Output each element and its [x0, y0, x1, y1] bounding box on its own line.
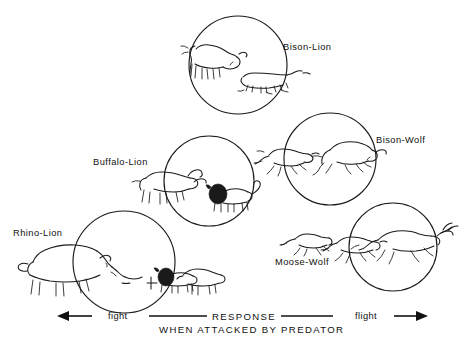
group-bison-wolf[interactable]: Bison-Wolf [254, 113, 425, 205]
label-bison-lion: Bison-Lion [283, 42, 331, 52]
figure-root: Bison-Lion [0, 0, 470, 345]
animal-lion-predator-2 [206, 181, 260, 212]
axis-subtitle: WHEN ATTACKED BY PREDATOR [159, 324, 344, 335]
label-bison-wolf: Bison-Wolf [376, 135, 425, 145]
lion-mane [209, 184, 227, 204]
animal-lion-predator-3 [147, 268, 225, 295]
animal-wolf-lone [280, 234, 332, 256]
arrow-left-head [57, 311, 69, 321]
lion-mane-2 [158, 268, 174, 286]
axis-label-fight: fight [108, 311, 128, 321]
animal-bison-prey-2 [313, 142, 386, 175]
group-bison-lion[interactable]: Bison-Lion [181, 16, 331, 114]
circle-bison-lion [189, 16, 287, 114]
circle-bison-wolf [284, 113, 376, 205]
group-buffalo-lion[interactable]: Buffalo-Lion [93, 136, 260, 226]
circle-rhino-lion [73, 211, 175, 313]
animal-rhino-prey [18, 245, 142, 296]
label-rhino-lion: Rhino-Lion [13, 228, 62, 238]
label-moose-wolf: Moose-Wolf [275, 257, 329, 267]
circle-buffalo-lion [164, 136, 254, 226]
response-axis: fight RESPONSE flight WHEN ATTACKED BY P… [57, 311, 428, 335]
diagram-canvas: Bison-Lion [0, 0, 470, 345]
animal-moose-prey [351, 223, 458, 264]
animal-lion-predator [238, 71, 310, 94]
group-rhino-lion[interactable]: Rhino-Lion [13, 211, 225, 313]
axis-label-response: RESPONSE [212, 311, 276, 322]
label-buffalo-lion: Buffalo-Lion [93, 157, 148, 167]
arrow-right-icon [394, 311, 428, 321]
circle-moose-wolf [349, 203, 437, 291]
arrow-right-head [416, 311, 428, 321]
group-moose-wolf[interactable]: Moose-Wolf [275, 203, 458, 291]
arrow-left-icon [57, 311, 92, 321]
axis-label-flight: flight [355, 311, 377, 321]
animal-wolf-predator-2 [321, 237, 387, 263]
animal-buffalo-prey [132, 170, 206, 204]
animal-wolf-predator [254, 149, 319, 176]
